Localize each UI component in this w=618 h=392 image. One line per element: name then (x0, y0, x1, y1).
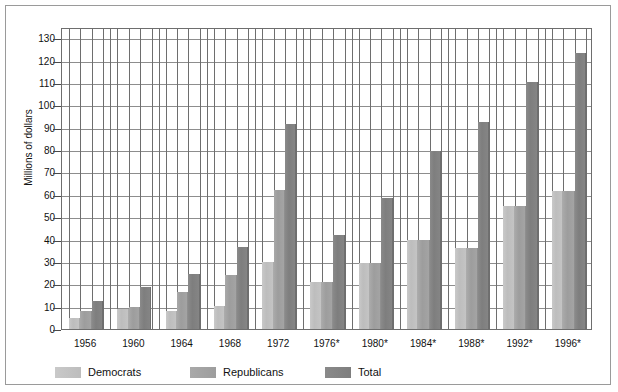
x-axis-tick-label: 1996* (538, 338, 598, 349)
bar-total (575, 53, 586, 329)
legend-item: Total (325, 365, 381, 379)
gridline-vertical (441, 29, 442, 329)
gridline-vertical (248, 29, 249, 329)
y-axis-tick-mark (53, 241, 61, 242)
gridline-horizontal (62, 106, 591, 107)
legend-item: Democrats (55, 365, 141, 379)
gridline-vertical (400, 29, 401, 329)
bar-republicans (418, 240, 429, 329)
gridline-vertical (545, 29, 546, 329)
gridline-horizontal (62, 151, 591, 152)
y-axis-tick-label: 120 (21, 57, 55, 67)
bar-total (381, 198, 392, 329)
y-axis-tick-mark (53, 308, 61, 309)
gridline-horizontal (62, 84, 591, 85)
y-axis-tick-label: 20 (21, 280, 55, 290)
gridline-vertical (159, 29, 160, 329)
bar-republicans (129, 307, 140, 329)
gridline-vertical (303, 29, 304, 329)
bar-democrats (455, 248, 466, 329)
y-axis-tick-mark (53, 129, 61, 130)
y-axis-tick-mark (53, 84, 61, 85)
y-axis-tick-label: 0 (21, 325, 55, 335)
y-axis-tick-label: 90 (21, 124, 55, 134)
gridline-horizontal (62, 173, 591, 174)
bar-total (430, 151, 441, 329)
gridline-vertical (496, 29, 497, 329)
bar-democrats (69, 318, 80, 329)
y-axis-tick-mark (53, 196, 61, 197)
bar-republicans (370, 263, 381, 329)
y-axis-tick-mark (53, 330, 61, 331)
y-axis-tick-label: 10 (21, 303, 55, 313)
bar-total (478, 122, 489, 329)
gridline-vertical (152, 29, 153, 329)
gridline-vertical (393, 29, 394, 329)
legend-swatch-icon (325, 367, 351, 378)
y-axis-tick-label: 70 (21, 168, 55, 178)
gridline-vertical (296, 29, 297, 329)
y-axis-tick-mark (53, 218, 61, 219)
chart-figure: Millions of dollars 01020304050607080901… (0, 0, 618, 392)
gridline-horizontal (62, 196, 591, 197)
y-axis-tick-label: 100 (21, 101, 55, 111)
gridline-vertical (352, 29, 353, 329)
bar-republicans (515, 206, 526, 329)
bar-republicans (225, 275, 236, 329)
bar-total (526, 82, 537, 329)
gridline-vertical (92, 29, 93, 329)
gridline-vertical (207, 29, 208, 329)
gridline-vertical (166, 29, 167, 329)
bar-republicans (177, 292, 188, 329)
y-axis-tick-label: 40 (21, 236, 55, 246)
y-axis-tick-mark (53, 39, 61, 40)
gridline-horizontal (62, 62, 591, 63)
gridline-vertical (255, 29, 256, 329)
bar-total (237, 247, 248, 329)
gridline-vertical (129, 29, 130, 329)
gridline-vertical (69, 29, 70, 329)
y-axis-tick-label: 130 (21, 34, 55, 44)
bar-democrats (262, 262, 273, 329)
y-axis-tick-label: 60 (21, 191, 55, 201)
gridline-horizontal (62, 129, 591, 130)
gridline-vertical (110, 29, 111, 329)
gridline-vertical (538, 29, 539, 329)
gridline-vertical (200, 29, 201, 329)
plot-area (61, 28, 592, 330)
legend-label: Total (358, 366, 381, 378)
bar-democrats (552, 191, 563, 329)
bar-republicans (80, 311, 91, 329)
gridline-vertical (80, 29, 81, 329)
bar-democrats (407, 240, 418, 329)
legend-label: Democrats (88, 366, 141, 378)
bar-total (285, 124, 296, 329)
y-axis-tick-mark (53, 285, 61, 286)
gridline-vertical (140, 29, 141, 329)
bar-democrats (503, 206, 514, 329)
bar-democrats (214, 306, 225, 329)
gridline-vertical (214, 29, 215, 329)
y-axis-tick-mark (53, 263, 61, 264)
y-axis-tick-mark (53, 173, 61, 174)
gridline-vertical (103, 29, 104, 329)
legend-label: Republicans (223, 366, 284, 378)
gridline-vertical (448, 29, 449, 329)
y-axis-tick-label: 110 (21, 79, 55, 89)
gridline-vertical (489, 29, 490, 329)
bar-democrats (166, 311, 177, 329)
legend-swatch-icon (190, 367, 216, 378)
bar-democrats (359, 263, 370, 329)
gridline-vertical (345, 29, 346, 329)
bar-republicans (467, 248, 478, 329)
bar-total (188, 274, 199, 329)
bar-republicans (563, 191, 574, 329)
bar-total (333, 235, 344, 329)
bar-republicans (274, 190, 285, 329)
legend-swatch-icon (55, 367, 81, 378)
gridline-vertical (177, 29, 178, 329)
bar-republicans (322, 282, 333, 329)
bar-democrats (117, 309, 128, 329)
bar-democrats (310, 282, 321, 329)
gridline-vertical (586, 29, 587, 329)
